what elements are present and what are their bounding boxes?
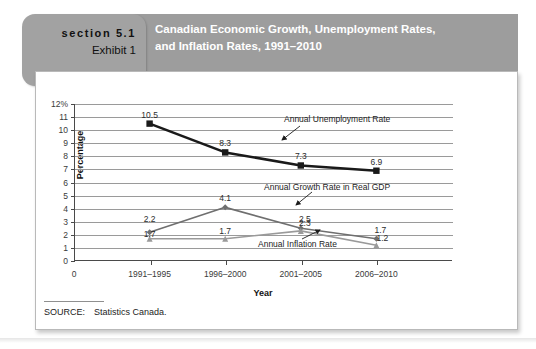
y-axis-tick xyxy=(71,183,75,184)
source-value: Statistics Canada. xyxy=(94,307,167,317)
series-annotation-label: Annual Unemployment Rate xyxy=(284,114,390,124)
gridline xyxy=(75,104,453,105)
y-axis-tick xyxy=(71,130,75,131)
gridline xyxy=(75,143,453,144)
source-rule xyxy=(44,301,104,302)
y-axis-tick xyxy=(71,196,75,197)
exhibit-page: Canadian Economic Growth, Unemployment R… xyxy=(0,0,536,349)
gridline xyxy=(75,169,453,170)
y-axis-tick xyxy=(71,235,75,236)
gridline xyxy=(75,222,453,223)
y-axis-tick-label: 5 xyxy=(28,192,68,201)
y-axis-tick-label: 1 xyxy=(28,244,68,253)
x-axis-tick-label: 1996–2000 xyxy=(187,269,263,279)
y-axis-tick-label: 6 xyxy=(28,179,68,188)
y-axis-tick-label: 11 xyxy=(28,113,68,122)
data-point-label: 6.9 xyxy=(361,158,391,167)
y-axis-tick-label: 9 xyxy=(28,139,68,148)
exhibit-title-line-2: and Inflation Rates, 1991–2010 xyxy=(155,38,505,55)
x-axis-origin-label: 0 xyxy=(36,269,112,279)
x-axis-tick-label: 1991–1995 xyxy=(112,269,188,279)
exhibit-number-label: Exhibit 1 xyxy=(62,41,136,59)
data-point-label: 8.3 xyxy=(210,139,240,148)
x-axis-tick xyxy=(226,261,227,265)
gridline xyxy=(75,209,453,210)
y-axis-tick xyxy=(71,209,75,210)
y-axis-tick-label: 7 xyxy=(28,165,68,174)
exhibit-title: Canadian Economic Growth, Unemployment R… xyxy=(155,21,505,55)
x-axis-title: Year xyxy=(74,288,452,298)
y-axis-tick xyxy=(71,169,75,170)
y-axis-tick-label: 0 xyxy=(28,257,68,266)
data-point-label: 7.3 xyxy=(286,152,316,161)
data-point-label: 2.3 xyxy=(290,219,320,228)
section-tab-text: section 5.1 Exhibit 1 xyxy=(62,26,136,59)
x-axis-tick xyxy=(302,261,303,265)
data-point-label: 1.7 xyxy=(210,227,240,236)
y-axis-tick-label: 2 xyxy=(28,231,68,240)
y-axis-tick-label: 10 xyxy=(28,126,68,135)
data-point-label: 4.1 xyxy=(210,194,240,203)
y-axis-tick xyxy=(71,117,75,118)
y-axis-tick xyxy=(71,261,75,262)
exhibit-title-line-1: Canadian Economic Growth, Unemployment R… xyxy=(155,21,505,38)
y-axis-tick xyxy=(71,143,75,144)
y-axis-tick xyxy=(71,248,75,249)
gridline xyxy=(75,117,453,118)
data-point-label: 1.7 xyxy=(135,230,165,239)
source-label: SOURCE: xyxy=(44,307,85,317)
y-axis-tick-label: 4 xyxy=(28,205,68,214)
data-point-label: 2.2 xyxy=(135,215,165,224)
y-axis-tick-label: 3 xyxy=(28,218,68,227)
y-axis-tick-label: 12% xyxy=(28,100,68,109)
series-annotation-label: Annual Inflation Rate xyxy=(258,239,337,249)
x-axis-tick xyxy=(151,261,152,265)
section-number-label: section 5.1 xyxy=(62,26,136,41)
y-axis-tick xyxy=(71,222,75,223)
data-point-label: 1.2 xyxy=(367,234,397,243)
gridline xyxy=(75,130,453,131)
source-note: SOURCE:Statistics Canada. xyxy=(44,307,167,317)
y-axis-tick-label: 8 xyxy=(28,152,68,161)
y-axis-tick xyxy=(71,156,75,157)
x-axis-tick xyxy=(377,261,378,265)
series-annotation-label: Annual Growth Rate in Real GDP xyxy=(264,182,390,192)
page-bottom-shadow xyxy=(0,338,536,343)
gridline xyxy=(75,196,453,197)
x-axis-tick-label: 2006–2010 xyxy=(338,269,414,279)
gridline xyxy=(75,156,453,157)
y-axis-tick xyxy=(71,104,75,105)
x-axis-tick-label: 2001–2005 xyxy=(263,269,339,279)
data-point-label: 10.5 xyxy=(135,111,165,120)
